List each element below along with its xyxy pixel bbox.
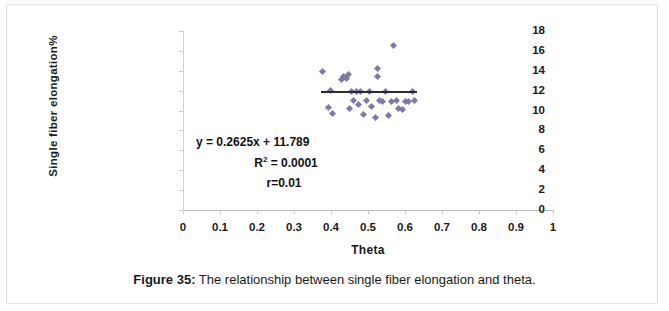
scatter-point [393,97,400,104]
y-axis-line [183,31,184,210]
x-tick-mark [257,210,258,214]
y-tick-label: 2 [517,184,545,196]
scatter-point [385,112,392,119]
correlation-coefficient: r=0.01 [196,174,368,194]
y-tick-label: 0 [517,204,545,216]
x-tick-label: 0.8 [459,222,499,234]
x-tick-label: 0.9 [496,222,536,234]
scatter-point [390,42,397,49]
y-tick-label: 18 [517,25,545,37]
figure-caption-label: Figure 35: [133,272,195,287]
scatter-point [371,114,378,121]
y-tick-mark [179,150,183,151]
trendline [321,91,417,93]
y-tick-mark [179,91,183,92]
y-tick-mark [179,130,183,131]
x-tick-mark [405,210,406,214]
x-axis-title: Theta [183,243,553,257]
y-tick-label: 8 [517,124,545,136]
y-tick-label: 14 [517,65,545,77]
r-squared-line: R2 = 0.0001 [196,153,368,174]
y-tick-label: 4 [517,164,545,176]
scatter-point [346,105,353,112]
r-squared-label: R [254,156,263,170]
y-tick-mark [179,31,183,32]
x-tick-label: 0 [163,222,203,234]
scatter-point [374,65,381,72]
x-tick-label: 1 [533,222,573,234]
figure-caption-text: The relationship between single fiber el… [195,272,535,287]
regression-equation: y = 0.2625x + 11.789 [196,133,368,153]
x-tick-mark [442,210,443,214]
scatter-point [368,103,375,110]
x-tick-label: 0.1 [200,222,240,234]
scatter-point [398,106,405,113]
y-tick-mark [179,51,183,52]
y-tick-mark [179,111,183,112]
y-tick-label: 10 [517,105,545,117]
scatter-point [363,97,370,104]
x-tick-label: 0.4 [311,222,351,234]
x-tick-mark [331,210,332,214]
scatter-point [379,98,386,105]
figure-container: Single fiber elongation% 024681012141618… [0,0,669,311]
scatter-point [319,68,326,75]
y-tick-label: 6 [517,144,545,156]
scatter-point [411,97,418,104]
chart-plot-region: Single fiber elongation% 024681012141618… [0,0,669,262]
y-tick-label: 12 [517,85,545,97]
x-tick-mark [516,210,517,214]
x-tick-mark [220,210,221,214]
x-tick-label: 0.3 [274,222,314,234]
r-squared-value: = 0.0001 [267,156,317,170]
x-tick-label: 0.5 [348,222,388,234]
y-tick-mark [179,190,183,191]
regression-annotation: y = 0.2625x + 11.789 R2 = 0.0001 r=0.01 [196,133,368,193]
y-tick-mark [179,71,183,72]
x-tick-label: 0.7 [422,222,462,234]
x-tick-mark [479,210,480,214]
x-tick-mark [553,210,554,214]
x-tick-mark [368,210,369,214]
y-tick-label: 16 [517,45,545,57]
scatter-point [360,111,367,118]
figure-caption: Figure 35: The relationship between sing… [0,272,669,287]
scatter-point [374,73,381,80]
x-tick-mark [294,210,295,214]
x-tick-label: 0.2 [237,222,277,234]
y-tick-mark [179,170,183,171]
scatter-point [355,101,362,108]
y-axis-title: Single fiber elongation% [47,6,59,206]
x-tick-label: 0.6 [385,222,425,234]
scatter-point [329,110,336,117]
x-tick-mark [183,210,184,214]
